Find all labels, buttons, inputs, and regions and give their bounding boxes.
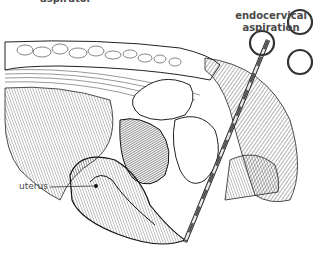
uterus-label: uterus (19, 181, 48, 191)
anatomical-illustration (0, 0, 323, 259)
lower-right-fringe (225, 155, 279, 200)
instrument-ring-right (288, 50, 312, 74)
endocervical-label-line2: aspiration (232, 22, 310, 34)
cervix-region (120, 117, 219, 184)
endocervical-label-line1: endocervical (232, 10, 310, 22)
endocervical-aspiration-label: endocervical aspiration (232, 10, 310, 34)
aspirator-label: aspirator (40, 0, 92, 4)
bladder (132, 79, 193, 120)
uterus (70, 157, 185, 244)
